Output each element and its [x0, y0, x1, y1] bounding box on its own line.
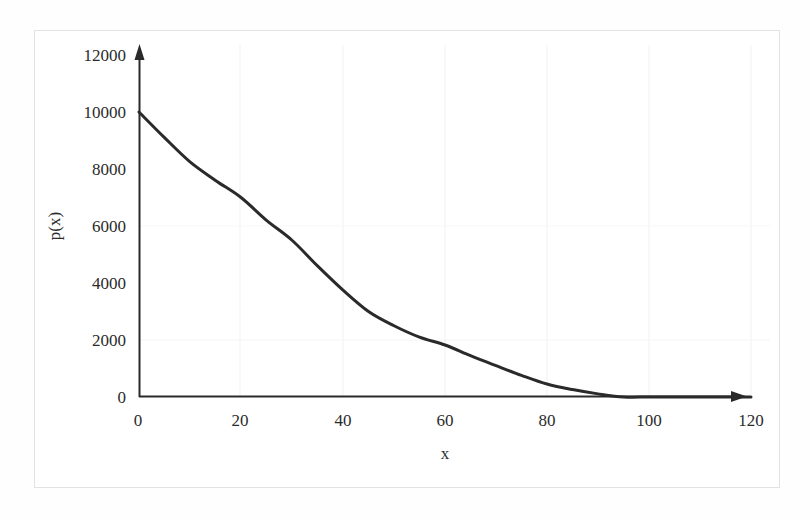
gridlines	[139, 45, 770, 397]
x-tick-label-20: 20	[232, 412, 249, 429]
y-tick-label-2000: 2000	[48, 332, 126, 349]
y-tick-label-4000: 4000	[48, 275, 126, 292]
y-tick-label-0: 0	[48, 389, 126, 406]
x-tick-label-60: 60	[437, 412, 454, 429]
y-tick-label-8000: 8000	[48, 161, 126, 178]
y-axis-title: p(x)	[46, 212, 63, 240]
x-tick-label-40: 40	[335, 412, 352, 429]
figure-container: 12000 10000 8000 6000 4000 2000 0 0 20 4…	[0, 0, 810, 520]
y-tick-label-12000: 12000	[48, 47, 126, 64]
y-axis	[135, 44, 145, 397]
x-tick-label-120: 120	[738, 412, 764, 429]
x-tick-label-80: 80	[539, 412, 556, 429]
chart-plot-area	[0, 0, 810, 520]
x-tick-label-0: 0	[134, 412, 143, 429]
y-tick-label-10000: 10000	[48, 104, 126, 121]
x-tick-label-100: 100	[636, 412, 662, 429]
x-axis-title: x	[441, 445, 450, 462]
